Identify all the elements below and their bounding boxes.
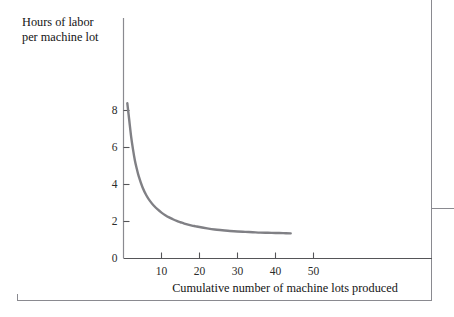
learning-curve-line	[127, 103, 290, 233]
x-tick-label: 10	[148, 266, 176, 278]
y-axis-title: Hours of labor per machine lot	[22, 15, 118, 45]
series-group	[127, 103, 290, 233]
y-tick-label: 6	[98, 142, 118, 154]
y-tick-label: 4	[98, 179, 118, 191]
x-tick-label: 40	[262, 266, 290, 278]
y-tick-marks	[124, 111, 130, 222]
y-axis-title-line-2: per machine lot	[22, 30, 118, 45]
x-axis-title: Cumulative number of machine lots produc…	[140, 281, 430, 295]
figure-root: 02468 1020304050 Hours of labor per mach…	[0, 0, 454, 317]
x-tick-label: 30	[224, 266, 252, 278]
y-tick-label: 0	[98, 253, 118, 265]
y-axis-title-line-1: Hours of labor	[22, 15, 118, 30]
x-tick-label: 20	[186, 266, 214, 278]
x-tick-marks	[162, 253, 314, 259]
y-tick-label: 8	[98, 105, 118, 117]
axes-group	[124, 18, 433, 259]
y-tick-label: 2	[98, 216, 118, 228]
x-tick-label: 50	[300, 266, 328, 278]
